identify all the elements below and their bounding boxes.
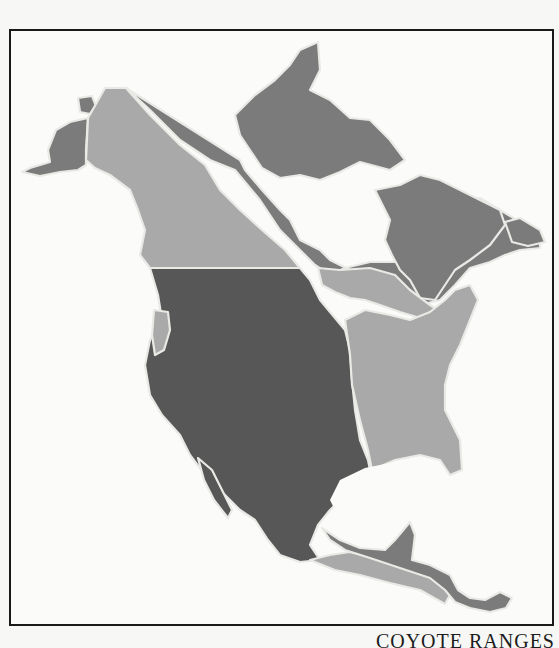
region-arctic-islands — [235, 42, 405, 180]
region-newfoundland — [505, 218, 545, 246]
region-western-us-mexico — [145, 268, 372, 562]
map-caption: COYOTE RANGES — [376, 630, 555, 648]
coyote-range-map — [0, 0, 559, 648]
region-alaska — [22, 118, 88, 176]
